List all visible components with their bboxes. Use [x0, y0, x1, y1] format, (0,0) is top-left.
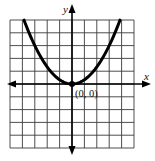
axes — [7, 4, 151, 155]
vertex-point — [69, 81, 75, 87]
parabola-graph: x y (0, 0) — [0, 0, 155, 161]
y-axis-label: y — [62, 3, 68, 15]
y-axis-up-arrow-icon — [69, 4, 76, 13]
vertex-label: (0, 0) — [75, 88, 98, 100]
y-axis-down-arrow-icon — [69, 146, 76, 155]
x-axis-label: x — [143, 70, 149, 82]
x-axis-left-arrow-icon — [7, 81, 16, 88]
